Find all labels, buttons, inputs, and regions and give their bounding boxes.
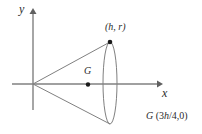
caption-open: (3 [153, 110, 164, 121]
top-point-label: (h, r) [105, 22, 126, 32]
caption-rest: /4,0) [169, 110, 188, 121]
cone-base-ellipse [103, 42, 117, 124]
centroid-label: G [84, 66, 91, 76]
cone-centroid-figure: y x (h, r) G G (3h/4,0) [0, 0, 202, 134]
x-axis-label: x [162, 87, 167, 99]
y-axis-label: y [19, 3, 24, 15]
cone-upper-side [33, 42, 110, 84]
cone-lower-side [33, 84, 110, 124]
top-point-marker [108, 40, 113, 45]
centroid-point-marker [86, 82, 90, 86]
caption: G (3h/4,0) [146, 111, 188, 121]
y-axis-arrowhead [30, 8, 37, 14]
